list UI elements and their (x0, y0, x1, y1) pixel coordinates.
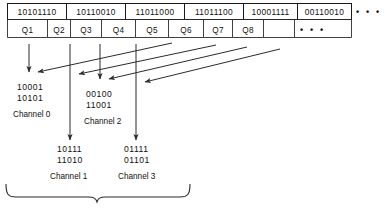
byte-row-ellipsis: • • • (356, 7, 381, 17)
q-cell-label: Q7 (212, 26, 224, 35)
byte-cell-value: 10001111 (251, 7, 289, 17)
channel-bits-line2: 11001 (86, 100, 112, 110)
channel-0-group: 10001 10101 Channel 0 (13, 82, 51, 119)
q-cell-label: Q2 (53, 26, 65, 35)
channel-2-group: 00100 11001 Channel 2 (84, 89, 122, 126)
byte-cell-value: 11011100 (195, 7, 233, 17)
channel-bits-line1: 00100 (86, 89, 112, 99)
channel-name: Channel 3 (118, 172, 156, 181)
channel-bits-line2: 11010 (57, 155, 83, 165)
channel-name: Channel 2 (84, 117, 122, 126)
channel-bits-line1: 10111 (57, 144, 82, 154)
channel-bits-line2: 10101 (17, 93, 43, 103)
bottom-brace (6, 184, 190, 202)
channel-bits-line1: 01111 (124, 144, 148, 154)
q-cell-label: Q1 (22, 26, 34, 35)
byte-cell-value: 10101110 (18, 7, 57, 17)
arrow-q5-to-channel0 (38, 43, 172, 72)
demultiplexing-diagram: 10101110 10110010 11011000 11011100 1000… (0, 0, 385, 210)
byte-cell-value: 11011000 (136, 7, 175, 17)
byte-row: 10101110 10110010 11011000 11011100 1000… (8, 4, 382, 20)
connector-lines (29, 43, 280, 140)
q-cell-label: Q6 (180, 26, 192, 35)
channel-name: Channel 1 (50, 172, 88, 181)
q-cell-label: Q4 (113, 26, 125, 35)
q-cell-label: Q5 (146, 26, 158, 35)
channel-bits-line2: 01101 (124, 155, 150, 165)
byte-cell-value: 00110010 (305, 7, 344, 17)
channel-3-group: 01111 01101 Channel 3 (118, 144, 156, 181)
q-cell-label: Q3 (80, 26, 92, 35)
q-row: Q1 Q2 Q3 Q4 Q5 Q6 Q7 Q8 • • • (8, 20, 352, 38)
q-row-ellipsis: • • • (300, 25, 325, 35)
byte-cell-value: 10110010 (76, 7, 115, 17)
channel-bits-line1: 10001 (17, 82, 43, 92)
channel-1-group: 10111 11010 Channel 1 (50, 144, 88, 181)
q-cell-label: Q8 (242, 26, 254, 35)
channel-name: Channel 0 (13, 110, 51, 119)
